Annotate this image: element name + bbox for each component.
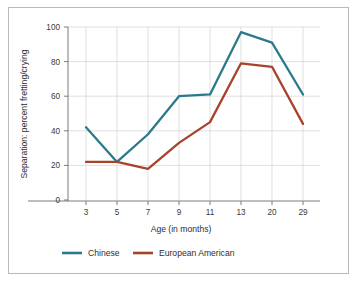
x-tick-label-20: 20	[267, 208, 277, 217]
y-tick-label-0: 0	[55, 196, 60, 205]
x-tick-label-29: 29	[298, 208, 308, 217]
legend-label-european-american: European American	[159, 248, 235, 258]
x-tick-marks	[86, 201, 303, 205]
line-chart: 100 80 60 40 20 0 3 5 7 9 11 13 20 29 Ag…	[0, 0, 357, 282]
y-tick-marks	[64, 27, 68, 200]
x-tick-labels: 3 5 7 9 11 13 20 29	[84, 208, 308, 217]
y-tick-label-60: 60	[51, 92, 61, 101]
series-line-chinese	[86, 32, 303, 162]
x-tick-label-9: 9	[177, 208, 182, 217]
y-tick-label-40: 40	[51, 127, 61, 136]
x-tick-label-11: 11	[206, 208, 215, 217]
x-tick-label-3: 3	[84, 208, 89, 217]
y-tick-labels: 100 80 60 40 20 0	[46, 23, 60, 205]
vertical-gridlines	[86, 27, 303, 200]
x-tick-label-13: 13	[236, 208, 246, 217]
x-tick-label-7: 7	[146, 208, 151, 217]
x-axis-title: Age (in months)	[151, 224, 212, 234]
legend-label-chinese: Chinese	[88, 248, 120, 258]
y-axis-title: Separation: percent fretting/crying	[19, 49, 29, 178]
chart-figure: 100 80 60 40 20 0 3 5 7 9 11 13 20 29 Ag…	[0, 0, 357, 282]
x-tick-label-5: 5	[115, 208, 120, 217]
y-tick-label-100: 100	[46, 23, 60, 32]
series-line-european-american	[86, 63, 303, 169]
chart-legend: Chinese European American	[62, 248, 235, 258]
y-tick-label-20: 20	[51, 161, 61, 170]
y-tick-label-80: 80	[51, 58, 61, 67]
